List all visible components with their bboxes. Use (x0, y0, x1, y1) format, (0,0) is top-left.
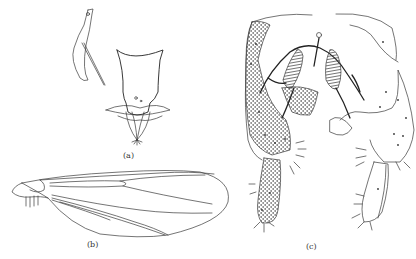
panel-label-a: (a) (123, 151, 134, 160)
figure (0, 0, 416, 259)
panel-label-b: (b) (87, 240, 98, 249)
panel-a-drawing (73, 9, 170, 145)
panel-b-wing (12, 171, 228, 237)
panel-label-c: (c) (306, 242, 317, 251)
panel-c-hypopygium (245, 14, 414, 232)
